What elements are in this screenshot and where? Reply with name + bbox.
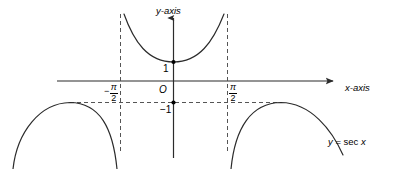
origin-label: O <box>159 85 167 95</box>
fraction-denominator-two: 2 <box>231 94 236 104</box>
fraction-pi-over-two-left: π 2 <box>110 83 118 103</box>
x-tick-label-minus-pi-over-two: − π 2 <box>104 83 118 103</box>
fraction-numerator-pi: π <box>229 83 237 93</box>
y-tick-label-minus-one: −1 <box>160 105 171 115</box>
y-axis-label: y-axis <box>156 6 181 16</box>
point-zero-minus-one-marker <box>171 100 175 104</box>
sec-left-branch-curve <box>13 103 117 170</box>
x-tick-label-pi-over-two: π 2 <box>229 83 237 103</box>
equation-x-symbol: x <box>361 136 366 147</box>
y-tick-label-one: 1 <box>163 64 169 74</box>
fraction-pi-over-two-right: π 2 <box>229 83 237 103</box>
x-axis-label-text: x-axis <box>345 82 370 93</box>
x-axis-label: x-axis <box>345 83 370 93</box>
point-zero-one-marker <box>171 60 175 64</box>
fraction-numerator-pi: π <box>110 83 118 93</box>
fraction-denominator-two: 2 <box>111 94 116 104</box>
sec-x-graph-figure: y-axis x-axis O 1 −1 − π 2 π 2 y = sec x <box>0 0 396 169</box>
equation-label: y = sec x <box>328 137 366 147</box>
equation-operator-text: = sec <box>333 136 361 147</box>
sec-right-branch-curve <box>231 103 343 170</box>
y-axis-label-text: y-axis <box>156 5 181 16</box>
